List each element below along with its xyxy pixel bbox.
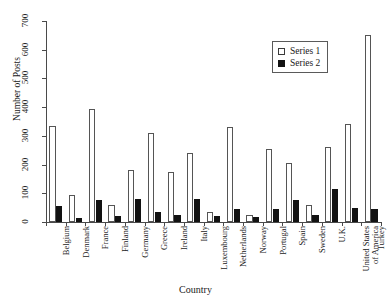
bar-series-2 bbox=[352, 208, 358, 222]
bar-group bbox=[108, 16, 121, 222]
filled-square-icon bbox=[278, 60, 285, 67]
legend-label-series-1: Series 1 bbox=[290, 46, 320, 56]
bar-group bbox=[148, 16, 161, 222]
y-axis-tick-label: 0 bbox=[21, 209, 30, 235]
bar-series-1 bbox=[207, 212, 213, 222]
bar-series-1 bbox=[266, 149, 272, 222]
y-axis-tick-label: 700 bbox=[21, 8, 30, 34]
bar-series-2 bbox=[76, 218, 82, 222]
bar-series-2 bbox=[234, 209, 240, 222]
chart-legend: Series 1 Series 2 bbox=[272, 41, 328, 73]
bar-series-2 bbox=[96, 200, 102, 222]
bar-group bbox=[246, 16, 259, 222]
bar-series-2 bbox=[312, 215, 318, 222]
bar-series-2 bbox=[273, 209, 279, 222]
bar-series-1 bbox=[49, 126, 55, 222]
x-axis-title: Country bbox=[0, 284, 391, 295]
x-axis-category-label: Italy bbox=[200, 226, 209, 292]
y-axis-tick-label: 300 bbox=[21, 122, 30, 148]
x-axis-category-label: Greece bbox=[160, 226, 169, 292]
bar-series-2 bbox=[56, 206, 62, 222]
y-axis-tick-label: 500 bbox=[21, 65, 30, 91]
bar-series-1 bbox=[365, 35, 371, 222]
bar-group bbox=[365, 16, 378, 222]
x-axis-category-label: Germany bbox=[141, 226, 150, 292]
bar-series-2 bbox=[332, 189, 338, 222]
bar-group bbox=[207, 16, 220, 222]
bar-series-2 bbox=[115, 216, 121, 222]
x-axis-category-label: Norway bbox=[259, 226, 268, 292]
y-axis-tick-label: 200 bbox=[21, 151, 30, 177]
bar-series-1 bbox=[306, 205, 312, 222]
y-axis-tick-label: 600 bbox=[21, 36, 30, 62]
x-axis-category-label: Portugal bbox=[279, 226, 288, 292]
bar-group bbox=[187, 16, 200, 222]
bar-series-1 bbox=[187, 153, 193, 222]
x-axis-category-label: France bbox=[101, 226, 110, 292]
bar-group bbox=[49, 16, 62, 222]
legend-item-series-2: Series 2 bbox=[278, 57, 320, 69]
bar-series-2 bbox=[293, 200, 299, 222]
x-axis-category-label: Turkey bbox=[377, 226, 386, 292]
bar-series-2 bbox=[135, 199, 141, 222]
bar-group bbox=[345, 16, 358, 222]
bar-series-1 bbox=[128, 170, 134, 222]
bar-series-1 bbox=[227, 127, 233, 222]
bar-series-2 bbox=[155, 212, 161, 222]
x-axis-category-label: Belgium bbox=[62, 226, 71, 292]
plot-area: 0100200300400500600700 bbox=[46, 16, 382, 222]
bar-series-1 bbox=[108, 205, 114, 222]
bar-chart: Number of Posts 0100200300400500600700 B… bbox=[0, 0, 391, 302]
x-axis-category-label: Netherlands bbox=[239, 226, 248, 292]
bar-series-2 bbox=[194, 199, 200, 222]
bar-series-1 bbox=[69, 195, 75, 222]
bar-series-1 bbox=[345, 124, 351, 222]
bar-series-1 bbox=[168, 172, 174, 222]
bar-series-1 bbox=[148, 133, 154, 222]
bar-series-container bbox=[46, 16, 381, 222]
x-axis-line bbox=[46, 222, 381, 223]
legend-label-series-2: Series 2 bbox=[290, 58, 320, 68]
bar-series-1 bbox=[286, 163, 292, 222]
x-axis-category-label: Sweden bbox=[318, 226, 327, 292]
bar-group bbox=[128, 16, 141, 222]
bar-series-2 bbox=[214, 216, 220, 222]
bar-series-2 bbox=[174, 215, 180, 222]
bar-series-2 bbox=[253, 217, 259, 222]
legend-item-series-1: Series 1 bbox=[278, 45, 320, 57]
x-axis-category-label: U.K. bbox=[338, 226, 347, 292]
x-axis-category-label: Ireland bbox=[180, 226, 189, 292]
bar-group bbox=[168, 16, 181, 222]
bar-group bbox=[69, 16, 82, 222]
bar-series-1 bbox=[325, 147, 331, 222]
bar-group bbox=[227, 16, 240, 222]
bar-group bbox=[89, 16, 102, 222]
x-axis-category-labels: BelgiumDenmarkFranceFinlandGermanyGreece… bbox=[46, 226, 382, 284]
y-axis-tick-label: 100 bbox=[21, 180, 30, 206]
x-axis-category-label: Denmark bbox=[82, 226, 91, 292]
bar-series-1 bbox=[89, 109, 95, 222]
bar-series-1 bbox=[246, 215, 252, 222]
open-square-icon bbox=[278, 48, 285, 55]
x-axis-category-label: Finland bbox=[121, 226, 130, 292]
bar-series-2 bbox=[371, 209, 377, 222]
x-axis-category-label: Luxembourg bbox=[220, 226, 229, 292]
y-axis-tick-label: 400 bbox=[21, 94, 30, 120]
x-axis-category-label: Spain bbox=[298, 226, 307, 292]
